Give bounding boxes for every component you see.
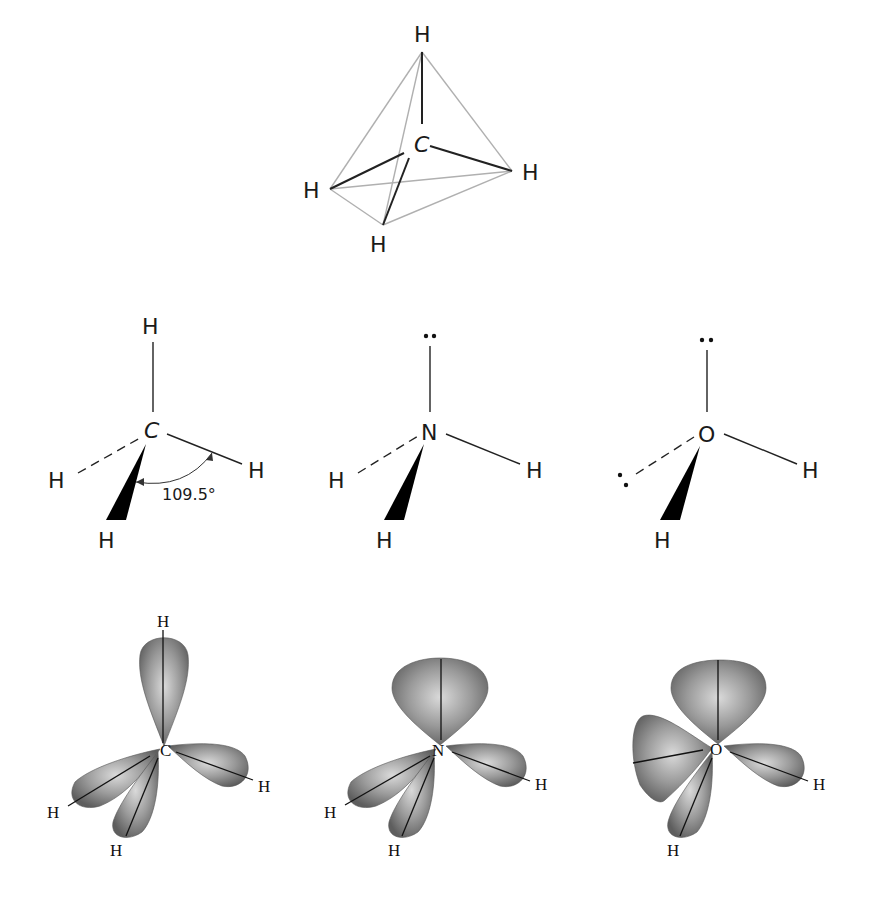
molecular-geometry-figure: C H H H H H C H H H 109.5° N H H H: [0, 0, 870, 897]
methane-orbital-bottom-h: H: [110, 841, 122, 860]
lone-pair-dot: [624, 483, 628, 487]
tetra-bottom-h: H: [370, 232, 387, 257]
methane-structure: H C H H H 109.5°: [48, 314, 265, 553]
methane-orbital-left-h: H: [47, 803, 59, 822]
methane-center-atom: C: [144, 418, 160, 443]
methane-orbital-diagram: C H H H H: [47, 612, 270, 860]
ammonia-right-h: H: [526, 458, 543, 483]
methane-right-h: H: [248, 458, 265, 483]
water-orbital-diagram: O H H: [633, 660, 825, 860]
ammonia-orbital-center: N: [432, 741, 444, 760]
ammonia-dashed-h: H: [328, 468, 345, 493]
ammonia-orbital-diagram: N H H H: [324, 658, 547, 860]
tetra-left-h: H: [303, 178, 320, 203]
water-center-atom: O: [698, 422, 715, 447]
tetra-center-atom: C: [414, 132, 430, 157]
methane-orbital-center: C: [160, 741, 171, 760]
methane-orbital-right-h: H: [258, 777, 270, 796]
ammonia-wedge-bond: [384, 444, 424, 520]
ammonia-structure: N H H H: [328, 334, 543, 553]
water-structure: O H H: [618, 338, 819, 553]
water-wedge-h: H: [654, 528, 671, 553]
bond-angle-label: 109.5°: [162, 485, 216, 504]
water-wedge-bond: [660, 446, 700, 520]
ammonia-orbital-right-h: H: [535, 775, 547, 794]
methane-orbital-top-h: H: [157, 612, 169, 631]
methane-wedge-h: H: [98, 528, 115, 553]
water-orbital-bottom-h: H: [667, 841, 679, 860]
ammonia-orbital-bottom-h: H: [388, 841, 400, 860]
ammonia-orbital-left-h: H: [324, 803, 336, 822]
tetra-right-h: H: [522, 160, 539, 185]
methane-top-h: H: [142, 314, 159, 339]
water-orbital-center: O: [710, 740, 722, 759]
ammonia-center-atom: N: [421, 420, 437, 445]
water-orbital-right-h: H: [813, 775, 825, 794]
ammonia-wedge-h: H: [376, 528, 393, 553]
lone-pair-dot: [618, 473, 622, 477]
tetrahedron-diagram: C H H H H: [303, 22, 539, 257]
methane-dashed-h: H: [48, 468, 65, 493]
tetra-top-h: H: [414, 22, 431, 47]
water-right-h: H: [802, 458, 819, 483]
